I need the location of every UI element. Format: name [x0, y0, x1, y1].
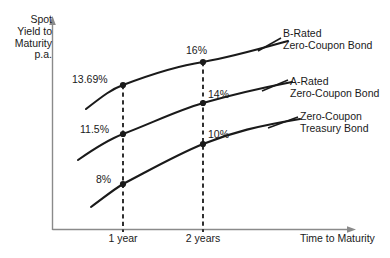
- series-label-a-rated: A-RatedZero-Coupon Bond: [290, 75, 379, 100]
- series-label-treasury: Zero-CouponTreasury Bond: [300, 110, 368, 135]
- series-label-a-line-1: A-Rated: [290, 75, 329, 87]
- y-axis-title-line-4: p.a.: [34, 48, 52, 60]
- point-label-a-1-year: 11.5%: [80, 124, 109, 136]
- point-label-b-1-year: 13.69%: [72, 74, 108, 86]
- x-tick-label-1-year: 1 year: [100, 233, 146, 245]
- data-point-a-2-years: [200, 100, 206, 106]
- curve-a-rated: [78, 82, 292, 160]
- series-label-t-line-2: Treasury Bond: [300, 122, 368, 134]
- spot-yield-curve-figure: SpotYield toMaturityp.a. Time to Maturit…: [0, 0, 390, 258]
- y-axis-title-line-1: Spot: [30, 13, 52, 25]
- series-label-b-line-2: Zero-Coupon Bond: [283, 39, 372, 51]
- x-axis-title: Time to Maturity: [300, 233, 375, 245]
- series-label-b-rated: B-RatedZero-Coupon Bond: [283, 27, 372, 52]
- series-label-b-line-1: B-Rated: [283, 27, 322, 39]
- data-point-t-1-year: [120, 181, 126, 187]
- leader-line-a-rated: [262, 80, 288, 91]
- data-point-a-1-year: [120, 131, 126, 137]
- data-point-t-2-years: [200, 141, 206, 147]
- data-point-b-2-years: [200, 59, 206, 65]
- y-axis-title: SpotYield toMaturityp.a.: [6, 14, 52, 61]
- y-axis-title-line-3: Maturity: [15, 37, 52, 49]
- leader-line-treasury: [268, 117, 298, 128]
- x-tick-label-2-years: 2 years: [180, 233, 226, 245]
- data-point-b-1-year: [120, 82, 126, 88]
- point-label-b-2-years: 16%: [186, 45, 207, 57]
- series-label-t-line-1: Zero-Coupon: [300, 110, 362, 122]
- series-label-a-line-2: Zero-Coupon Bond: [290, 87, 379, 99]
- point-label-t-2-years: 10%: [208, 129, 229, 141]
- point-label-a-2-years: 14%: [208, 89, 229, 101]
- point-label-t-1-year: 8%: [96, 174, 111, 186]
- y-axis-title-line-2: Yield to: [17, 25, 52, 37]
